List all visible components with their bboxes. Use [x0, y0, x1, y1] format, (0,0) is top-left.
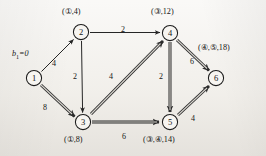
- node-4-label: (③,12): [151, 8, 174, 16]
- edge-weight-3-5: 6: [122, 133, 126, 141]
- edge-weight-4-6: 6: [190, 58, 194, 66]
- edge-weight-1-2: 4: [52, 60, 56, 68]
- edge-2-3: [82, 41, 83, 113]
- source-label-value: =0: [19, 49, 29, 58]
- edge-weight-3-4: 4: [109, 73, 113, 81]
- node-5-number: 5: [168, 117, 172, 127]
- edge-1-2: [42, 40, 74, 72]
- node-3[interactable]: 3: [75, 114, 90, 129]
- node-5-label: (③,④,14): [143, 136, 175, 144]
- edge-weight-1-3: 8: [43, 104, 47, 112]
- node-1[interactable]: 1: [26, 70, 41, 85]
- node-6-number: 6: [214, 73, 218, 83]
- edge-weight-2-3: 2: [73, 73, 77, 81]
- edge-weight-2-4: 2: [121, 26, 125, 34]
- node-5[interactable]: 5: [162, 114, 177, 129]
- source-node-label: b1=0: [12, 50, 29, 60]
- node-2-number: 2: [79, 27, 83, 37]
- node-6[interactable]: 6: [208, 70, 223, 85]
- node-2-label: (①,4): [62, 8, 81, 16]
- node-4[interactable]: 4: [162, 25, 177, 40]
- edge-5-6: [178, 86, 209, 115]
- network-graph: 1 2 3 4 5 6: [0, 0, 266, 156]
- edge-weight-5-6: 4: [191, 115, 195, 123]
- node-1-number: 1: [32, 73, 36, 83]
- node-2[interactable]: 2: [73, 24, 88, 39]
- edge-3-4: [91, 41, 163, 114]
- node-3-label: (①,8): [64, 136, 83, 144]
- diagram-canvas: 1 2 3 4 5 6 b1=0 (①,4) (③,12) (④,⑤,18) (…: [0, 0, 266, 156]
- node-3-number: 3: [81, 117, 85, 127]
- node-6-label: (④,⑤,18): [198, 44, 230, 52]
- edge-weight-4-5: 2: [159, 73, 163, 81]
